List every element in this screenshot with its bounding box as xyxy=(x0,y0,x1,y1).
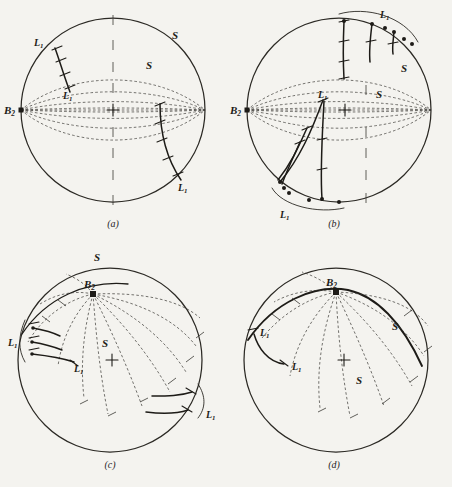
l1-bundle-lower xyxy=(278,98,341,204)
panel-a-graphic: B2 L1 L1 L1 S S xyxy=(0,0,226,244)
meridian-direction-ticks xyxy=(272,298,432,418)
caption-b: (b) xyxy=(314,218,354,229)
caption-a: (a) xyxy=(93,218,133,229)
figure-root: B2 L1 L1 L1 S S xyxy=(0,0,452,487)
l1-label-c-2: L1 xyxy=(73,363,84,375)
caption-d: (d) xyxy=(314,459,354,470)
l1-bundle-left-c xyxy=(29,322,78,366)
basepoint-label-d: B2 xyxy=(325,276,337,290)
l1-label-b-3: L1 xyxy=(279,209,290,221)
panel-c-graphic: B2 L1 xyxy=(0,244,226,487)
s-label-b-1: S xyxy=(401,62,407,74)
basepoint-label-b: B2 xyxy=(229,104,241,118)
center-cross-marker xyxy=(106,354,118,366)
panel-d: B2 L1 L1 S S (d) xyxy=(226,244,452,487)
l1-label-d-1: L1 xyxy=(259,327,270,339)
l1-label-b-1: L1 xyxy=(379,9,390,21)
basepoint-label-c: B2 xyxy=(83,278,95,292)
basepoint-label-a: B2 xyxy=(3,104,15,118)
panel-a: B2 L1 L1 L1 S S xyxy=(0,0,226,244)
l1-label-d-2: L1 xyxy=(291,361,302,373)
l1-bundle-right-c xyxy=(146,388,196,413)
l1-curve-upper-left xyxy=(52,46,75,92)
meridian-direction-ticks xyxy=(42,300,204,416)
meridian-lines xyxy=(262,272,428,416)
l1-label-a-2: L1 xyxy=(62,90,73,102)
l1-label-c-1: L1 xyxy=(7,337,18,349)
s-geodesic-c xyxy=(22,283,128,334)
panel-b-graphic: B2 xyxy=(226,0,452,244)
panel-c: B2 L1 xyxy=(0,244,226,487)
panel-d-graphic: B2 L1 L1 S S xyxy=(226,244,452,487)
s-label-d-1: S xyxy=(392,320,398,332)
right-bracket-c xyxy=(198,384,204,418)
basepoint-node xyxy=(19,108,24,113)
center-cross-marker xyxy=(339,104,351,116)
panel-b: B2 xyxy=(226,0,452,244)
caption-c: (c) xyxy=(90,459,130,470)
center-cross-marker xyxy=(338,354,350,366)
l1-label-a-1: L1 xyxy=(33,37,44,49)
meridian-lines xyxy=(28,274,200,414)
s-label-b-2: S xyxy=(376,88,382,100)
center-cross-marker xyxy=(107,104,119,116)
basepoint-node xyxy=(245,108,250,113)
l1-label-c-3: L1 xyxy=(205,409,216,421)
s-label-c-1: S xyxy=(94,251,100,263)
l1-curve-right xyxy=(155,102,183,180)
s-label-c-2: S xyxy=(102,337,108,349)
l1-label-a-3: L1 xyxy=(177,182,188,194)
s-label-a-2: S xyxy=(146,59,152,71)
l1-label-b-2: L1 xyxy=(317,89,328,101)
s-label-a-1: S xyxy=(172,29,178,41)
s-label-d-2: S xyxy=(356,374,362,386)
